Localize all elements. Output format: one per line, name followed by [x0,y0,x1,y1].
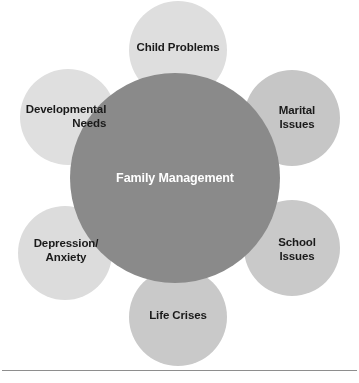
bottom-divider [2,370,357,371]
label-marital-issues: Marital Issues [266,104,328,131]
family-management-diagram: Child Problems Marital Issues School Iss… [0,0,359,383]
label-school-issues: School Issues [266,236,328,263]
diagram-label-layer: Child Problems Marital Issues School Iss… [0,0,359,383]
label-family-management: Family Management [116,171,234,186]
label-child-problems: Child Problems [137,41,220,55]
label-depression-anxiety: Depression/ Anxiety [34,237,99,264]
label-developmental-needs: Developmental Needs [26,103,107,130]
label-life-crises: Life Crises [149,309,207,323]
